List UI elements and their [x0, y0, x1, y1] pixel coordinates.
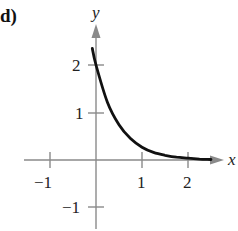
y-tick-label: −1 [62, 198, 80, 217]
x-tick-label: 1 [137, 173, 146, 192]
panel-label: d) [0, 5, 17, 27]
x-tick-label: −1 [34, 173, 52, 192]
y-tick-label: 1 [75, 104, 84, 123]
chart: d) −1 1 2 2 1 −1 x y [0, 0, 238, 231]
y-axis-arrow-icon [92, 24, 101, 38]
x-tick-label: 2 [183, 173, 192, 192]
y-axis-label: y [90, 3, 100, 22]
x-axis-label: x [227, 150, 236, 169]
y-tick-label: 2 [72, 56, 81, 75]
curve [92, 48, 211, 159]
